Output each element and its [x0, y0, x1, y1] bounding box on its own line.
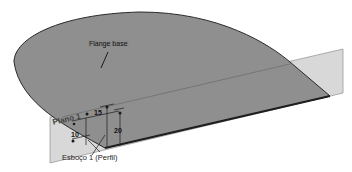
cad-viewport: Flange base Plano 1 15 10 20 Esboço 1 (P… — [0, 0, 352, 172]
sketch-label[interactable]: Esboço 1 (Perfil) — [62, 154, 117, 162]
dimension-20[interactable]: 20 — [114, 127, 122, 134]
dimension-15[interactable]: 15 — [94, 109, 102, 116]
dimension-10[interactable]: 10 — [71, 131, 79, 138]
diagram-canvas — [0, 0, 352, 172]
flange-base-label[interactable]: Flange base — [88, 40, 129, 47]
